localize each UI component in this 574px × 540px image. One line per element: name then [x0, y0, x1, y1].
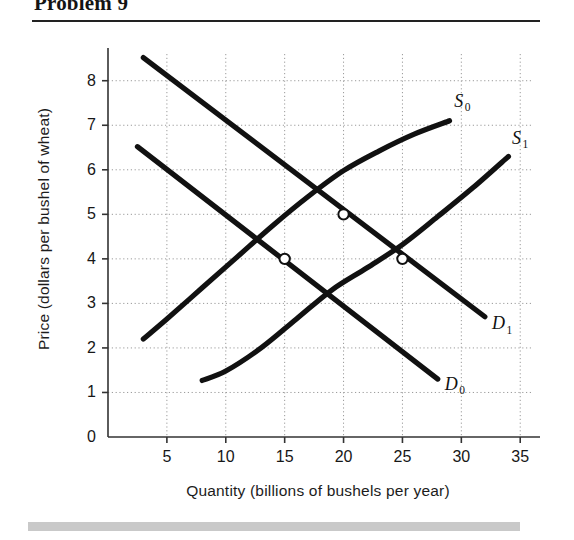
- x-tick-label-30: 30: [446, 449, 476, 465]
- curve-label-S0: S0: [454, 92, 470, 114]
- curve-D1: [143, 58, 485, 317]
- footer-bar: [28, 522, 520, 531]
- curve-label-D0: D0: [445, 375, 465, 397]
- y-tick-label-1: 1: [70, 384, 96, 400]
- y-tick-label-7: 7: [70, 117, 96, 133]
- curve-label-sub: 1: [521, 138, 528, 150]
- axis-lines: [102, 48, 540, 443]
- y-tick-label-6: 6: [70, 162, 96, 178]
- curve-label-sub: 1: [505, 324, 512, 336]
- y-axis-title: Price (dollars per bushel of wheat): [35, 79, 53, 379]
- curve-label-text: S: [512, 128, 521, 148]
- y-tick-label-0: 0: [70, 429, 96, 445]
- supply-demand-figure: 012345678 5101520253035 S0S1D0D1 Price (…: [0, 24, 574, 514]
- x-tick-label-20: 20: [329, 449, 359, 465]
- equilibrium-c: [397, 254, 407, 264]
- curve-lines: [137, 58, 508, 381]
- curve-label-text: D: [445, 374, 458, 394]
- curve-label-sub: 0: [463, 101, 470, 113]
- y-tick-label-5: 5: [70, 206, 96, 222]
- curve-label-D1: D1: [492, 314, 512, 336]
- y-tick-label-8: 8: [70, 73, 96, 89]
- equilibrium-a: [279, 254, 289, 264]
- y-tick-label-4: 4: [70, 251, 96, 267]
- x-tick-label-10: 10: [211, 449, 241, 465]
- curve-label-text: S: [454, 91, 463, 111]
- x-tick-label-15: 15: [270, 449, 300, 465]
- curve-S0: [143, 121, 449, 339]
- header-divider: [32, 20, 540, 22]
- curve-label-sub: 0: [458, 384, 465, 396]
- x-tick-label-5: 5: [152, 449, 182, 465]
- curve-S1: [202, 156, 508, 380]
- curve-label-text: D: [492, 313, 505, 333]
- y-tick-label-2: 2: [70, 340, 96, 356]
- x-axis-title: Quantity (billions of bushels per year): [108, 482, 528, 500]
- x-tick-label-25: 25: [387, 449, 417, 465]
- page-title: Problem 9: [34, 0, 128, 16]
- y-tick-label-3: 3: [70, 295, 96, 311]
- curve-label-S1: S1: [512, 129, 528, 151]
- equilibrium-b: [338, 209, 348, 219]
- x-tick-label-35: 35: [505, 449, 535, 465]
